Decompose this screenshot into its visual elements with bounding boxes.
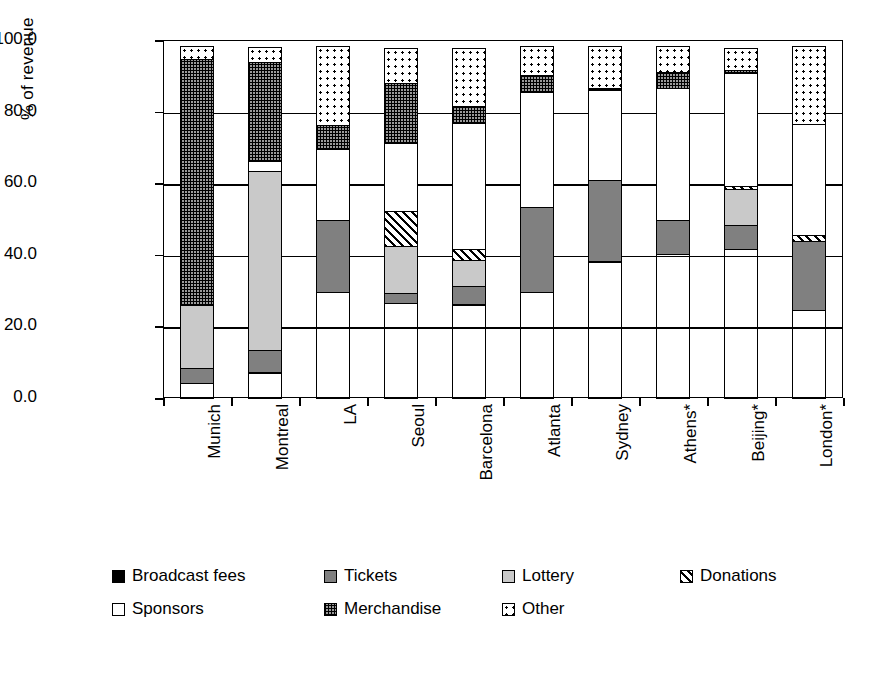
x-tick-label: Sydney	[613, 404, 633, 461]
stacked-bar[interactable]	[316, 46, 350, 398]
x-tick-label: LA	[341, 404, 361, 425]
bar-segment-sponsors[interactable]	[316, 149, 350, 221]
bar-segment-broadcastfees[interactable]	[792, 310, 826, 400]
revenue-stacked-bar-chart: % of revenue 0.020.040.060.080.0100.0 Mu…	[0, 0, 882, 678]
bar-segment-other[interactable]	[724, 48, 758, 71]
x-tick-mark	[367, 398, 369, 406]
legend-label: Merchandise	[344, 599, 441, 619]
bar-segment-tickets[interactable]	[656, 220, 690, 256]
bar-segment-merchandise[interactable]	[248, 62, 282, 162]
x-tick-label: Munich	[205, 404, 225, 459]
stacked-bar[interactable]	[248, 47, 282, 398]
bar-segment-broadcastfees[interactable]	[384, 303, 418, 400]
bar-segment-merchandise[interactable]	[452, 106, 486, 124]
stacked-bar[interactable]	[588, 46, 622, 398]
bar-segment-other[interactable]	[520, 46, 554, 76]
bar-segment-sponsors[interactable]	[792, 124, 826, 237]
bar-segment-broadcastfees[interactable]	[248, 372, 282, 399]
stacked-bar[interactable]	[724, 48, 758, 398]
bar-segment-tickets[interactable]	[724, 225, 758, 250]
bar-segment-other[interactable]	[656, 46, 690, 73]
bar-slot	[503, 40, 571, 398]
legend-label: Donations	[700, 566, 777, 586]
stacked-bar[interactable]	[520, 46, 554, 398]
legend-item-sponsors[interactable]: Sponsors	[112, 599, 204, 619]
bar-segment-tickets[interactable]	[248, 350, 282, 373]
bar-segment-merchandise[interactable]	[656, 72, 690, 90]
bar-segment-lottery[interactable]	[452, 260, 486, 287]
legend-item-other[interactable]: Other	[502, 599, 565, 619]
x-tick-label: Seoul	[409, 404, 429, 447]
bar-segment-other[interactable]	[384, 48, 418, 84]
bar-segment-sponsors[interactable]	[452, 123, 486, 250]
x-tick-mark	[775, 398, 777, 406]
x-tick-label: Barcelona	[477, 404, 497, 481]
bar-segment-merchandise[interactable]	[180, 59, 214, 306]
bar-segment-sponsors[interactable]	[588, 90, 622, 181]
x-tick-mark	[843, 398, 845, 406]
bar-segment-tickets[interactable]	[520, 207, 554, 293]
bar-segment-tickets[interactable]	[452, 286, 486, 306]
stacked-bar[interactable]	[452, 48, 486, 398]
bar-segment-lottery[interactable]	[724, 189, 758, 227]
bar-segment-broadcastfees[interactable]	[520, 292, 554, 399]
bar-slot	[775, 40, 843, 398]
legend-row: Broadcast feesTicketsLotteryDonations	[112, 566, 812, 599]
bar-segment-broadcastfees[interactable]	[180, 383, 214, 399]
bar-segment-broadcastfees[interactable]	[316, 292, 350, 399]
bar-segment-broadcastfees[interactable]	[656, 254, 690, 399]
bar-slot	[707, 40, 775, 398]
bar-segment-other[interactable]	[248, 47, 282, 63]
x-tick-mark	[231, 398, 233, 406]
bar-segment-tickets[interactable]	[316, 220, 350, 293]
chart-legend: Broadcast feesTicketsLotteryDonationsSpo…	[112, 566, 812, 632]
bar-segment-other[interactable]	[452, 48, 486, 107]
legend-swatch-sponsors-icon	[112, 603, 125, 616]
bar-segment-broadcastfees[interactable]	[588, 261, 622, 399]
bar-segment-donations[interactable]	[384, 211, 418, 247]
bar-segment-sponsors[interactable]	[520, 92, 554, 208]
bar-segment-lottery[interactable]	[384, 246, 418, 294]
bar-segment-sponsors[interactable]	[384, 143, 418, 213]
bar-segment-merchandise[interactable]	[384, 83, 418, 144]
stacked-bar[interactable]	[792, 46, 826, 398]
y-tick-label: 60.0	[0, 173, 37, 190]
bar-segment-merchandise[interactable]	[520, 75, 554, 93]
legend-label: Sponsors	[132, 599, 204, 619]
bar-slot	[163, 40, 231, 398]
legend-item-tickets[interactable]: Tickets	[324, 566, 397, 586]
stacked-bar[interactable]	[180, 46, 214, 398]
stacked-bar[interactable]	[656, 46, 690, 398]
y-tick-mark	[155, 326, 163, 328]
legend-row: SponsorsMerchandiseOther	[112, 599, 812, 632]
y-tick-mark	[155, 112, 163, 114]
legend-item-donations[interactable]: Donations	[680, 566, 777, 586]
x-tick-mark	[163, 398, 165, 406]
bar-segment-lottery[interactable]	[248, 171, 282, 352]
bar-slot	[367, 40, 435, 398]
legend-item-broadcast[interactable]: Broadcast fees	[112, 566, 245, 586]
x-tick-mark	[571, 398, 573, 406]
bar-segment-tickets[interactable]	[792, 241, 826, 311]
legend-item-merchandise[interactable]: Merchandise	[324, 599, 441, 619]
bar-segment-other[interactable]	[588, 46, 622, 89]
bar-slot	[435, 40, 503, 398]
bar-segment-other[interactable]	[792, 46, 826, 125]
bar-segment-broadcastfees[interactable]	[452, 304, 486, 399]
bar-segment-sponsors[interactable]	[724, 73, 758, 188]
stacked-bar[interactable]	[384, 48, 418, 398]
x-tick-mark	[435, 398, 437, 406]
y-tick-mark	[155, 398, 163, 400]
legend-swatch-merchandise-icon	[324, 603, 337, 616]
bar-segment-tickets[interactable]	[588, 180, 622, 262]
legend-item-lottery[interactable]: Lottery	[502, 566, 574, 586]
legend-swatch-broadcast-icon	[112, 570, 125, 583]
bar-segment-lottery[interactable]	[180, 305, 214, 369]
bar-segment-tickets[interactable]	[180, 368, 214, 384]
x-tick-mark	[503, 398, 505, 406]
bar-segment-merchandise[interactable]	[316, 125, 350, 150]
bar-segment-other[interactable]	[316, 46, 350, 127]
bar-segment-broadcastfees[interactable]	[724, 249, 758, 399]
bar-segment-sponsors[interactable]	[656, 88, 690, 220]
y-tick-label: 0.0	[0, 388, 37, 405]
